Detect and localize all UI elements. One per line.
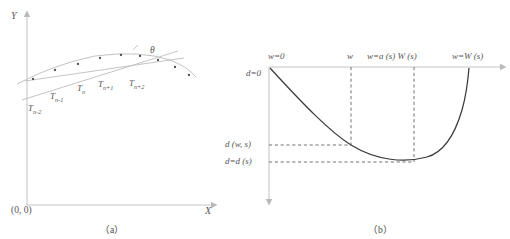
d-tick-label-dws: d (w, s): [225, 140, 251, 149]
depth-curve: [270, 68, 469, 160]
data-point: [188, 74, 190, 76]
panel-b-caption: （b）: [368, 222, 393, 236]
data-point: [157, 59, 159, 61]
w-tick-label-W: w=W (s): [452, 52, 483, 61]
d-tick-label-ds: d=d (s): [225, 157, 252, 166]
figure-container: Tn-2 Tn-1 Tn Tn+1 Tn+2 θ Y X (0, 0) （a）: [0, 0, 510, 239]
panel-b: w=0 w w=a (s) W (s) w=W (s) d=0 d (w, s)…: [255, 0, 510, 239]
origin-label: (0, 0): [11, 205, 32, 215]
panel-a-graphic: [0, 0, 255, 239]
data-point: [120, 54, 122, 56]
angle-theta-label: θ: [150, 45, 155, 55]
x-axis-label: X: [205, 205, 211, 216]
data-point: [77, 63, 79, 65]
w-tick-label-w: w: [347, 52, 353, 61]
point-label-n-minus-1: Tn-1: [50, 92, 63, 103]
d-tick-label-zero: d=0: [246, 69, 261, 78]
w-tick-label-zero: w=0: [268, 52, 285, 61]
y-axis-label: Y: [11, 10, 17, 21]
data-point: [54, 69, 56, 71]
data-point: [99, 57, 101, 59]
point-label-n-minus-2: Tn-2: [28, 104, 41, 115]
data-point: [174, 66, 176, 68]
data-point: [139, 55, 141, 57]
panel-a: Tn-2 Tn-1 Tn Tn+1 Tn+2 θ Y X (0, 0) （a）: [0, 0, 255, 239]
data-point: [32, 78, 34, 80]
point-label-n: Tn: [77, 84, 85, 95]
point-label-n-plus-1: Tn+1: [98, 80, 113, 91]
angle-arc: [133, 45, 138, 50]
panel-b-graphic: [255, 0, 510, 239]
point-label-n-plus-2: Tn+2: [129, 79, 144, 90]
panel-a-caption: （a）: [100, 222, 124, 236]
w-tick-label-aw: w=a (s) W (s): [367, 52, 417, 61]
